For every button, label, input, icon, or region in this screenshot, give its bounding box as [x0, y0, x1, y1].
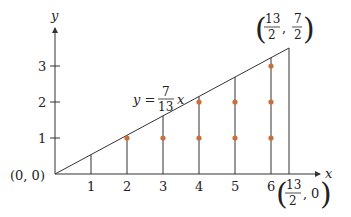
lattice-dot — [232, 135, 237, 140]
equation-numerator: 7 — [162, 85, 170, 99]
top-x-denominator: 2 — [268, 28, 276, 42]
bottom-comma: , — [303, 186, 307, 201]
lattice-dot — [196, 99, 201, 104]
lattice-dot — [124, 135, 129, 140]
lattice-dot — [268, 135, 273, 140]
paren-right: ) — [303, 11, 315, 46]
lattice-dot — [268, 99, 273, 104]
top-x-numerator: 13 — [265, 12, 280, 26]
bottom-y-value: 0 — [311, 186, 319, 201]
x-tick-label-3: 3 — [159, 179, 167, 194]
y-tick-label-3: 3 — [38, 59, 46, 74]
x-tick-label-4: 4 — [195, 179, 203, 194]
lattice-dot — [196, 135, 201, 140]
equation-lhs: y = — [132, 92, 155, 107]
x-tick-label-5: 5 — [231, 179, 239, 194]
equation-denominator: 13 — [158, 100, 173, 114]
y-axis-label: y — [50, 8, 59, 23]
bottom-corner-label: ( 13 2 , 0 ) — [276, 176, 332, 211]
top-y-denominator: 2 — [294, 28, 302, 42]
y-tick-label-1: 1 — [38, 131, 46, 146]
bottom-x-denominator: 2 — [289, 194, 297, 208]
paren-right: ) — [320, 176, 332, 211]
lattice-triangle-diagram: y x 1 2 3 1 2 3 4 5 6 (0, 0) y = 7 13 x … — [0, 0, 351, 217]
lattice-dot — [160, 135, 165, 140]
top-comma: , — [282, 20, 286, 35]
y-tick-label-2: 2 — [38, 95, 46, 110]
origin-label: (0, 0) — [10, 168, 45, 183]
x-tick-label-2: 2 — [123, 179, 131, 194]
lattice-dot — [232, 99, 237, 104]
equation-var: x — [177, 92, 185, 107]
top-corner-label: ( 13 2 , 7 2 ) — [255, 11, 315, 46]
x-tick-label-6: 6 — [267, 179, 275, 194]
lattice-dot — [268, 63, 273, 68]
x-tick-label-1: 1 — [87, 179, 95, 194]
top-y-numerator: 7 — [294, 12, 302, 26]
bottom-x-numerator: 13 — [286, 178, 301, 192]
line-equation-label: y = 7 13 x — [132, 85, 185, 114]
